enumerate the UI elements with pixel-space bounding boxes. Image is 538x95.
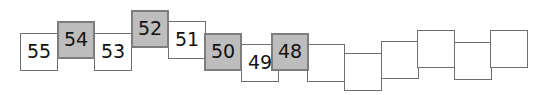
empty-box-9 <box>344 53 382 91</box>
box-label: 55 <box>27 42 51 61</box>
number-sequence-figure: 5554535251504948 <box>0 0 538 95</box>
empty-box-8 <box>307 44 345 82</box>
number-box-51: 51 <box>168 21 206 59</box>
box-label: 50 <box>211 42 235 61</box>
box-label: 48 <box>278 42 302 61</box>
number-box-54: 54 <box>57 21 95 59</box>
box-label: 49 <box>248 53 272 72</box>
box-label: 52 <box>138 19 162 38</box>
empty-box-11 <box>417 30 455 68</box>
number-box-53: 53 <box>94 33 132 71</box>
empty-box-10 <box>381 41 419 79</box>
box-label: 53 <box>101 42 125 61</box>
number-box-48: 48 <box>271 33 309 71</box>
box-label: 54 <box>64 30 88 49</box>
number-box-55: 55 <box>20 33 58 71</box>
empty-box-13 <box>490 30 528 68</box>
number-box-50: 50 <box>204 33 242 71</box>
number-box-52: 52 <box>131 10 169 48</box>
box-label: 51 <box>175 30 199 49</box>
empty-box-12 <box>454 42 492 80</box>
